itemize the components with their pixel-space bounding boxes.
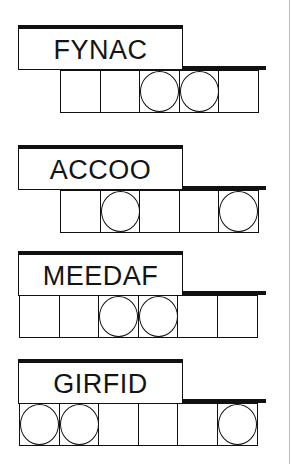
scrambled-word-box: ACCOO bbox=[18, 145, 183, 190]
answer-cell-circled[interactable] bbox=[139, 70, 180, 113]
scrambled-word: FYNAC bbox=[53, 37, 147, 64]
answer-cell[interactable] bbox=[177, 403, 218, 446]
scrambled-word: GIRFID bbox=[53, 371, 148, 398]
circle-marker-icon bbox=[101, 191, 140, 232]
answer-cell[interactable] bbox=[19, 295, 60, 338]
answer-cells bbox=[60, 70, 259, 113]
answer-cell[interactable] bbox=[59, 295, 100, 338]
circle-marker-icon bbox=[140, 71, 179, 112]
answer-cell[interactable] bbox=[139, 190, 180, 233]
answer-cell-circled[interactable] bbox=[179, 70, 220, 113]
circle-marker-icon bbox=[20, 404, 59, 445]
circle-marker-icon bbox=[218, 404, 257, 445]
answer-cell[interactable] bbox=[218, 70, 259, 113]
answer-cell-circled[interactable] bbox=[19, 403, 60, 446]
answer-cell[interactable] bbox=[98, 403, 139, 446]
answer-cell-circled[interactable] bbox=[218, 190, 259, 233]
scrambled-word-box: MEEDAF bbox=[18, 251, 183, 296]
scrambled-word-box: GIRFID bbox=[18, 359, 183, 404]
answer-cell[interactable] bbox=[60, 190, 101, 233]
circle-marker-icon bbox=[219, 191, 258, 232]
answer-cell-circled[interactable] bbox=[98, 295, 139, 338]
answer-cell-circled[interactable] bbox=[138, 295, 179, 338]
answer-cells bbox=[19, 403, 258, 446]
answer-cell-circled[interactable] bbox=[217, 403, 258, 446]
answer-cell[interactable] bbox=[138, 403, 179, 446]
circle-marker-icon bbox=[139, 296, 178, 337]
answer-cells bbox=[60, 190, 259, 233]
scrambled-word: ACCOO bbox=[50, 157, 152, 184]
answer-cell[interactable] bbox=[217, 295, 258, 338]
answer-cell[interactable] bbox=[177, 295, 218, 338]
answer-cell[interactable] bbox=[179, 190, 220, 233]
answer-cell[interactable] bbox=[100, 70, 141, 113]
scrambled-word: MEEDAF bbox=[43, 263, 159, 290]
circle-marker-icon bbox=[180, 71, 219, 112]
circle-marker-icon bbox=[60, 404, 99, 445]
scrambled-word-box: FYNAC bbox=[18, 25, 183, 70]
answer-cell-circled[interactable] bbox=[59, 403, 100, 446]
answer-cell-circled[interactable] bbox=[100, 190, 141, 233]
circle-marker-icon bbox=[99, 296, 138, 337]
page-edge-rule bbox=[289, 0, 290, 464]
answer-cells bbox=[19, 295, 258, 338]
answer-cell[interactable] bbox=[60, 70, 101, 113]
